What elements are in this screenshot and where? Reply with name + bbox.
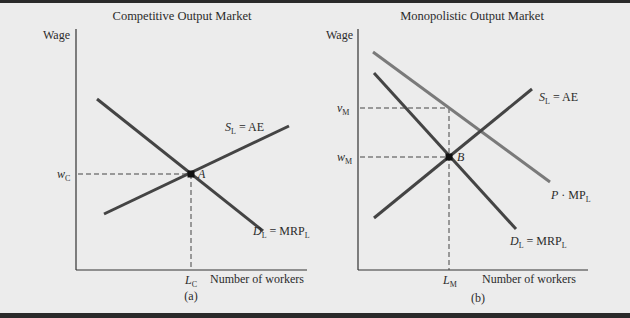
demand-curve	[374, 73, 516, 229]
demand-curve	[97, 99, 263, 231]
quantity-tick-label: LM	[442, 273, 457, 289]
panel-competitive: Competitive Output Market Wage A SL = AE…	[43, 9, 310, 303]
chart-title: Competitive Output Market	[113, 9, 252, 23]
equilibrium-point	[446, 154, 453, 161]
equilibrium-label: A	[197, 167, 206, 181]
y-axis-label: Wage	[326, 28, 353, 42]
supply-curve	[374, 89, 532, 218]
panel-monopolistic: Monopolistic Output Market Wage B SL = A…	[326, 9, 591, 305]
wage-tick-label: wC	[57, 167, 70, 183]
panel-label: (a)	[184, 289, 197, 303]
charts: Competitive Output Market Wage A SL = AE…	[0, 0, 630, 318]
chart-title: Monopolistic Output Market	[400, 9, 544, 23]
supply-curve	[104, 126, 289, 214]
bottom-border	[0, 313, 630, 318]
supply-label: SL = AE	[225, 120, 264, 136]
wage-tick-label: wM	[337, 150, 352, 166]
supply-label: SL = AE	[539, 90, 578, 106]
x-axis-label: Number of workers	[210, 272, 304, 286]
demand-label: DL = MRPL	[509, 234, 567, 250]
vmp-tick-label: vM	[337, 101, 349, 117]
x-axis-label: Number of workers	[482, 272, 576, 286]
panel-label: (b)	[471, 291, 485, 305]
y-axis-label: Wage	[43, 28, 70, 42]
equilibrium-label: B	[457, 150, 465, 164]
vmp-label: P · MPL	[550, 188, 591, 204]
equilibrium-point	[188, 171, 195, 178]
quantity-tick-label: LC	[184, 273, 197, 289]
demand-label: DL = MRPL	[252, 224, 310, 240]
